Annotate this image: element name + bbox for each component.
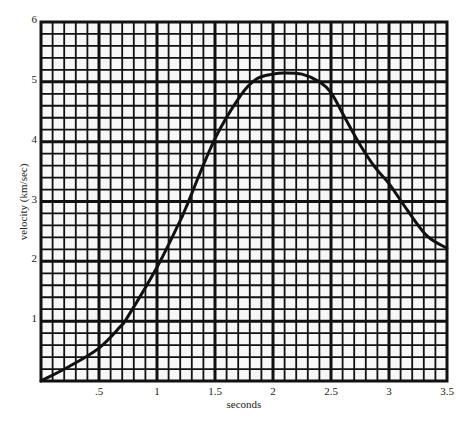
y-tick-label: 6 [32, 13, 38, 25]
x-tick-label: 3 [386, 385, 392, 397]
chart-canvas: .511.522.533.5 123456 seconds velocity (… [0, 0, 469, 425]
x-tick-label: 3.5 [440, 385, 454, 397]
y-tick-label: 2 [32, 252, 38, 264]
y-tick-label: 5 [32, 73, 38, 85]
y-tick-label: 3 [32, 193, 38, 205]
y-tick-label: 4 [32, 133, 38, 145]
velocity-chart: .511.522.533.5 123456 seconds velocity (… [0, 0, 469, 425]
y-tick-label: 1 [32, 312, 38, 324]
x-tick-label: 1.5 [208, 385, 222, 397]
x-tick-label: 2 [270, 385, 276, 397]
x-tick-label: 1 [154, 385, 160, 397]
x-tick-label: .5 [95, 385, 104, 397]
x-axis-label: seconds [227, 398, 262, 410]
x-tick-label: 2.5 [324, 385, 338, 397]
y-axis-label: velocity (km/sec) [17, 163, 30, 240]
